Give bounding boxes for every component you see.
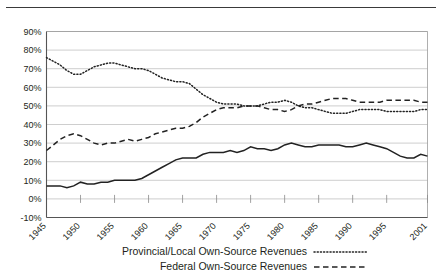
x-tick-label-1970: 1970	[197, 221, 218, 242]
y-tick-label-10: 10%	[23, 176, 41, 186]
y-tick-label-40: 40%	[23, 120, 41, 130]
y-tick-label-50: 50%	[23, 101, 41, 111]
x-tick-label-1985: 1985	[299, 221, 320, 242]
chart-figure: 90%80%70%60%50%40%30%20%10%0%-10% 194519…	[0, 0, 442, 277]
x-tick-label-1990: 1990	[333, 221, 354, 242]
legend-label-federal: Federal Own-Source Revenues	[160, 260, 307, 272]
x-tick-label-1955: 1955	[95, 221, 116, 242]
y-tick-label-70: 70%	[23, 64, 41, 74]
x-tick-label-2001: 2001	[408, 221, 429, 242]
series-solid-line	[47, 143, 428, 188]
x-tick-label-1995: 1995	[367, 221, 388, 242]
y-tick-label-20: 20%	[23, 157, 41, 167]
x-tick-label-1975: 1975	[231, 221, 252, 242]
chart-legend: Provincial/Local Own-Source RevenuesFede…	[122, 245, 368, 272]
y-tick-label-90: 90%	[23, 27, 41, 37]
x-tick-label-1950: 1950	[61, 221, 82, 242]
data-series-layer	[47, 58, 428, 188]
y-axis-tick-labels: 90%80%70%60%50%40%30%20%10%0%-10%	[20, 27, 41, 223]
x-tick-label-1960: 1960	[129, 221, 150, 242]
y-tick-label-0: 0%	[28, 194, 41, 204]
x-axis-tick-labels: 1945195019551960196519701975198019851990…	[27, 221, 429, 242]
x-tick-label-1945: 1945	[27, 221, 48, 242]
y-tick-label-30: 30%	[23, 138, 41, 148]
y-tick-label-60: 60%	[23, 83, 41, 93]
y-tick-label--10: -10%	[20, 213, 41, 223]
revenue-share-line-chart: 90%80%70%60%50%40%30%20%10%0%-10% 194519…	[0, 0, 442, 277]
y-gridlines	[47, 32, 428, 218]
series-provincial-local	[47, 58, 428, 114]
x-tick-label-1980: 1980	[265, 221, 286, 242]
y-tick-label-80: 80%	[23, 45, 41, 55]
top-divider-rule	[6, 7, 436, 8]
legend-label-provincial-local: Provincial/Local Own-Source Revenues	[122, 245, 307, 257]
x-tick-label-1965: 1965	[163, 221, 184, 242]
